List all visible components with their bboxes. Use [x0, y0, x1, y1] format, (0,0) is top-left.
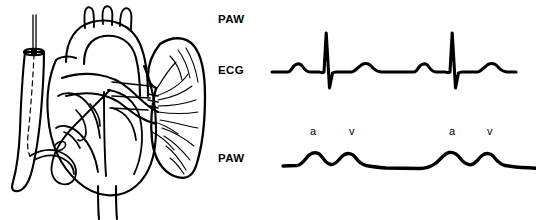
v-wave-annotation-2: v	[487, 125, 493, 137]
left-heart-chambers	[108, 90, 142, 174]
pulmonary-branches-right	[110, 82, 150, 110]
lung-bronchial-tree	[152, 48, 198, 174]
paw-bottom-label: PAW	[218, 152, 245, 164]
waveform-tracings-panel	[212, 0, 536, 220]
a-wave-annotation-1: a	[310, 125, 316, 137]
heart-anatomy-svg	[0, 0, 212, 220]
figure-root: PAW ECG PAW a v a v	[0, 0, 536, 220]
v-wave-annotation-1: v	[349, 125, 355, 137]
heart-anatomy-illustration	[0, 0, 212, 220]
waveform-svg	[212, 0, 536, 220]
ecg-label: ECG	[218, 64, 244, 76]
ecg-trace	[272, 33, 516, 88]
right-heart-chambers	[56, 93, 100, 172]
catheter-in-svc	[28, 54, 34, 156]
heart-valve-leaflets	[64, 104, 100, 148]
interventricular-septum	[104, 92, 106, 176]
pulmonary-artery	[62, 74, 158, 124]
a-wave-annotation-2: a	[449, 125, 455, 137]
paw-top-label: PAW	[218, 13, 245, 25]
paw-trace	[283, 152, 536, 168]
superior-vena-cava	[12, 52, 44, 191]
catheter-external-wire	[33, 15, 36, 52]
inferior-vena-cava	[98, 186, 117, 219]
